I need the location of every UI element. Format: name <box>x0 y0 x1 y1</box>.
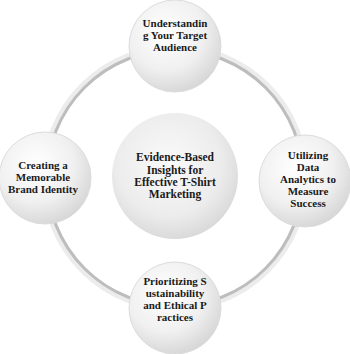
node-left-label: Creating a Memorable Brand Identity <box>8 150 78 206</box>
node-right-label: Utilizing Data Analytics to Measure Succ… <box>276 146 340 214</box>
center-node-label: Evidence-Based Insights for Effective T-… <box>125 136 225 216</box>
node-top-label: Understanding Your Target Audience <box>142 8 208 64</box>
node-bottom-label: Prioritizing Sustainability and Ethical … <box>142 270 208 330</box>
